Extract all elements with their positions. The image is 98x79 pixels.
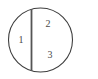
region-label-3: 3 — [48, 50, 53, 60]
circle-diagram-svg — [0, 0, 98, 79]
circle-diagram: 1 2 3 — [0, 0, 98, 79]
region-label-2: 2 — [46, 19, 51, 29]
region-label-1: 1 — [19, 35, 24, 45]
